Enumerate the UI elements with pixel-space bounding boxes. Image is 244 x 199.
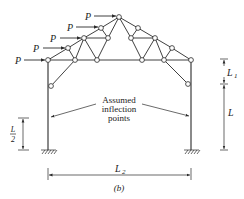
dim-L2: L bbox=[114, 163, 121, 174]
load-label: P bbox=[84, 11, 91, 22]
dimension-half-L: L 2 bbox=[10, 118, 29, 150]
load-label: P bbox=[66, 22, 73, 33]
load-label: P bbox=[14, 55, 21, 66]
figure-caption: (b) bbox=[114, 183, 125, 193]
load-label: P bbox=[32, 43, 39, 54]
svg-text:2: 2 bbox=[122, 168, 126, 176]
portal-frame-diagram: P P P P P Assumed inflection points L 1 … bbox=[0, 0, 244, 199]
svg-text:points: points bbox=[108, 113, 131, 123]
svg-text:L: L bbox=[10, 125, 16, 134]
dim-L: L bbox=[227, 107, 234, 118]
load-label: P bbox=[49, 33, 56, 44]
inflection-annotation: Assumed inflection points bbox=[51, 95, 189, 123]
dim-L1: L bbox=[226, 67, 233, 78]
fixed-supports bbox=[41, 150, 200, 154]
dimension-right: L 1 L bbox=[220, 59, 238, 150]
svg-text:1: 1 bbox=[234, 72, 238, 80]
svg-text:2: 2 bbox=[11, 135, 15, 144]
dimension-L2: L 2 bbox=[48, 163, 191, 180]
